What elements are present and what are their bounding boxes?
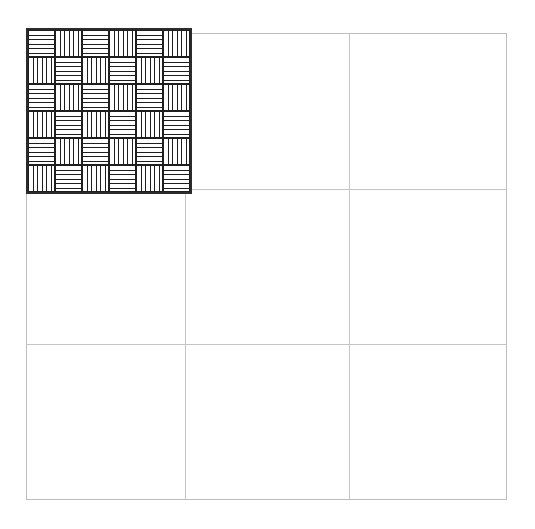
hatch-tile-vertical: [137, 166, 163, 192]
hatch-tile-horizontal: [164, 166, 190, 192]
hatch-tile-horizontal: [137, 85, 163, 111]
hatch-tile-vertical: [164, 85, 190, 111]
hatch-tile-vertical: [83, 112, 109, 138]
hatch-tile-horizontal: [164, 112, 190, 138]
hatch-tile-horizontal: [83, 31, 109, 57]
hatch-tile-vertical: [137, 58, 163, 84]
hatch-tile-vertical: [83, 166, 109, 192]
hatch-tile-horizontal: [137, 139, 163, 165]
hatch-tile-horizontal: [29, 139, 55, 165]
hatch-tile-horizontal: [110, 112, 136, 138]
hatch-tile-horizontal: [110, 58, 136, 84]
hatch-tile-horizontal: [137, 31, 163, 57]
hatch-tile-horizontal: [56, 112, 82, 138]
basketweave-hatch-graphic: [28, 30, 190, 192]
hatch-tile-vertical: [164, 139, 190, 165]
hatch-tile-horizontal: [56, 58, 82, 84]
hatch-tile-horizontal: [83, 85, 109, 111]
hatch-tile-vertical: [29, 58, 55, 84]
hatch-tile-vertical: [56, 85, 82, 111]
hatch-tile-vertical: [29, 112, 55, 138]
hatch-tile-vertical: [110, 85, 136, 111]
hatch-tile-horizontal: [29, 31, 55, 57]
hatch-tile-horizontal: [110, 166, 136, 192]
hatch-tile-horizontal: [29, 85, 55, 111]
hatch-tile-vertical: [137, 112, 163, 138]
hatch-tile-vertical: [83, 58, 109, 84]
hatch-tile-vertical: [56, 31, 82, 57]
hatch-tile-horizontal: [56, 166, 82, 192]
hatch-tile-horizontal: [83, 139, 109, 165]
pattern-canvas: [0, 0, 535, 529]
hatch-tile-vertical: [164, 31, 190, 57]
hatch-tile-horizontal: [164, 58, 190, 84]
basketweave-pattern-swatch[interactable]: [26, 28, 192, 194]
grid-vertical-line-2: [349, 33, 350, 500]
hatch-tile-vertical: [29, 166, 55, 192]
grid-horizontal-line-2: [26, 344, 507, 345]
hatch-tile-vertical: [110, 31, 136, 57]
hatch-tile-vertical: [110, 139, 136, 165]
hatch-tile-vertical: [56, 139, 82, 165]
